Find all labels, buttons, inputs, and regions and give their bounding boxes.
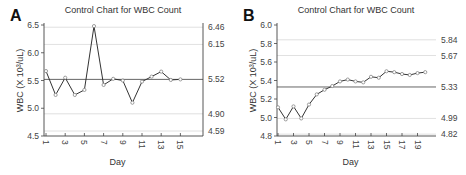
data-point — [346, 78, 349, 81]
chart-title: Control Chart for WBC Count — [65, 5, 182, 15]
control-limit-label: 6.46 — [208, 22, 225, 32]
y-tick-label: 5.2 — [260, 94, 272, 104]
data-point — [150, 75, 153, 78]
control-limit-label: 5.52 — [208, 74, 225, 84]
data-point — [400, 72, 403, 75]
x-tick-label: 1 — [41, 140, 51, 145]
data-point — [416, 72, 419, 75]
data-point — [179, 78, 182, 81]
data-point — [169, 78, 172, 81]
y-tick-label: 5.8 — [260, 39, 272, 49]
data-point — [276, 106, 279, 109]
x-axis-label: Day — [342, 157, 359, 167]
x-tick-label: 7 — [320, 140, 330, 145]
control-limit-label: 4.90 — [208, 109, 225, 119]
data-point — [424, 71, 427, 74]
data-point — [54, 93, 57, 96]
control-limit-label: 4.82 — [441, 129, 458, 139]
data-point — [408, 73, 411, 76]
x-tick-label: 11 — [137, 140, 147, 149]
y-tick-label: 5.0 — [27, 103, 39, 113]
y-tick-label: 5.6 — [260, 57, 272, 67]
data-point — [315, 93, 318, 96]
chart-title: Control Chart for WBC Count — [298, 5, 415, 15]
control-limit-label: 5.84 — [441, 35, 458, 45]
data-point — [307, 103, 310, 106]
data-series-line — [46, 26, 180, 103]
data-point — [64, 76, 67, 79]
x-tick-label: 1 — [273, 140, 283, 145]
panel-label: A — [10, 7, 22, 24]
data-point — [160, 70, 163, 73]
data-point — [44, 69, 47, 72]
data-point — [369, 75, 372, 78]
x-tick-label: 13 — [366, 140, 376, 150]
control-limit-label: 4.59 — [208, 126, 225, 136]
data-point — [112, 77, 115, 80]
x-tick-label: 19 — [413, 140, 423, 150]
control-limit-label: 4.99 — [441, 113, 458, 123]
data-point — [300, 117, 303, 120]
chart-panel-b: BControl Chart for WBC Count6.05.85.65.4… — [243, 5, 458, 167]
y-tick-label: 5.0 — [260, 113, 272, 123]
x-tick-label: 3 — [289, 140, 299, 145]
x-tick-label: 7 — [99, 140, 109, 145]
control-limit-label: 6.15 — [208, 39, 225, 49]
y-axis-label: WBC (X 10³/uL) — [248, 49, 258, 113]
y-tick-label: 6.0 — [260, 20, 272, 30]
control-limit-label: 5.33 — [441, 82, 458, 92]
y-tick-label: 4.8 — [260, 131, 272, 141]
y-tick-label: 5.5 — [27, 76, 39, 86]
data-point — [92, 25, 95, 28]
data-point — [338, 80, 341, 83]
y-tick-label: 5.4 — [260, 76, 272, 86]
y-tick-label: 4.5 — [27, 131, 39, 141]
data-point — [354, 80, 357, 83]
x-tick-label: 17 — [397, 140, 407, 150]
data-point — [102, 83, 105, 86]
x-tick-label: 5 — [304, 140, 314, 145]
data-point — [131, 101, 134, 104]
x-tick-label: 9 — [335, 140, 345, 145]
data-point — [362, 81, 365, 84]
control-charts: AControl Chart for WBC Count6.56.05.55.0… — [0, 0, 466, 175]
chart-panel-a: AControl Chart for WBC Count6.56.05.55.0… — [10, 5, 225, 167]
data-point — [83, 88, 86, 91]
x-axis-label: Day — [109, 157, 126, 167]
data-point — [140, 80, 143, 83]
panel-label: B — [243, 7, 255, 24]
data-point — [284, 118, 287, 121]
data-point — [377, 76, 380, 79]
y-tick-label: 6.5 — [27, 20, 39, 30]
x-tick-label: 13 — [156, 140, 166, 150]
x-tick-label: 15 — [175, 140, 185, 150]
data-point — [121, 79, 124, 82]
data-point — [393, 71, 396, 74]
x-tick-label: 3 — [60, 140, 70, 145]
x-tick-label: 15 — [382, 140, 392, 150]
x-tick-label: 11 — [351, 140, 361, 149]
data-point — [73, 93, 76, 96]
data-point — [385, 70, 388, 73]
data-series-line — [278, 71, 425, 119]
x-tick-label: 9 — [118, 140, 128, 145]
y-tick-label: 6.0 — [27, 48, 39, 58]
x-tick-label: 5 — [79, 140, 89, 145]
control-limit-label: 5.67 — [441, 51, 458, 61]
y-axis-label: WBC (X 10³/uL) — [15, 49, 25, 113]
data-point — [323, 88, 326, 91]
data-point — [292, 105, 295, 108]
data-point — [331, 84, 334, 87]
